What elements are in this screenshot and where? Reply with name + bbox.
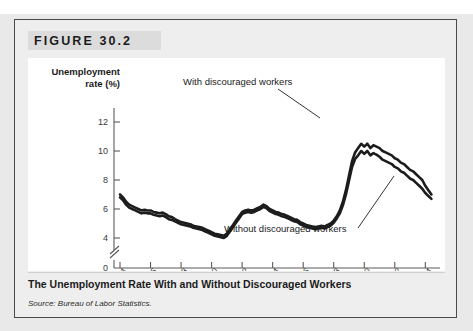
annotation-leader-line <box>278 89 320 118</box>
y-axis: 46810120 <box>98 108 120 271</box>
y-tick-label: 10 <box>98 146 108 156</box>
y-tick-label-zero: 0 <box>103 263 108 271</box>
chart-plot-panel: Unemployment rate (%) 46810120 199419961… <box>28 58 445 271</box>
figure-caption: The Unemployment Rate With and Without D… <box>28 278 432 290</box>
x-axis: 1994199619982000200220042006200820102012… <box>108 262 440 271</box>
y-tick-label: 12 <box>98 117 108 127</box>
figure-container: FIGURE 30.2 Unemployment rate (%) 468101… <box>14 19 457 318</box>
y-tick-label: 6 <box>103 204 108 214</box>
figure-number-label: FIGURE 30.2 <box>28 34 132 48</box>
chart-annotations-group: With discouraged workersWithout discoura… <box>183 76 394 234</box>
figure-number-band: FIGURE 30.2 <box>28 31 161 50</box>
y-tick-label: 8 <box>103 175 108 185</box>
page-top-margin <box>0 0 473 14</box>
y-tick-label: 4 <box>103 233 108 243</box>
annotation-leader-line <box>358 176 394 228</box>
figure-source: Source: Bureau of Labor Statistics. <box>28 299 432 308</box>
unemployment-rate-line-chart: 46810120 1994199619982000200220042006200… <box>28 58 445 271</box>
caption-divider <box>28 272 445 273</box>
annotation-label: With discouraged workers <box>183 76 293 87</box>
annotation-label: Without discouraged workers <box>224 223 347 234</box>
page-background: FIGURE 30.2 Unemployment rate (%) 468101… <box>0 0 473 331</box>
